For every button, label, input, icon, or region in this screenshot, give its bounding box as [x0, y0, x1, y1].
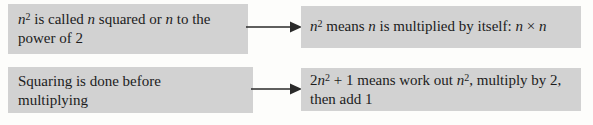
- text-line: n2 means n is multiplied by itself: n × …: [310, 17, 577, 36]
- note-box-squaring-order: Squaring is done beforemultiplying: [8, 67, 253, 113]
- right-arrow-icon: [251, 82, 302, 96]
- text-line: 2n2 + 1 means work out n2, multiply by 2…: [310, 71, 577, 90]
- flow-diagram: n2 is called n squared or n to thepower …: [0, 0, 593, 125]
- note-box-two-n-squared-plus-one: 2n2 + 1 means work out n2, multiply by 2…: [301, 68, 581, 111]
- text-line: Squaring is done before: [18, 72, 245, 91]
- text-line: multiplying: [18, 91, 245, 110]
- note-box-n-squared-meaning: n2 means n is multiplied by itself: n × …: [301, 6, 581, 48]
- text-line: power of 2: [18, 29, 240, 48]
- text-line: n2 is called n squared or n to the: [18, 10, 240, 29]
- right-arrow-icon: [246, 20, 302, 34]
- note-box-n-squared-naming: n2 is called n squared or n to thepower …: [8, 4, 248, 54]
- text-line: then add 1: [310, 90, 577, 109]
